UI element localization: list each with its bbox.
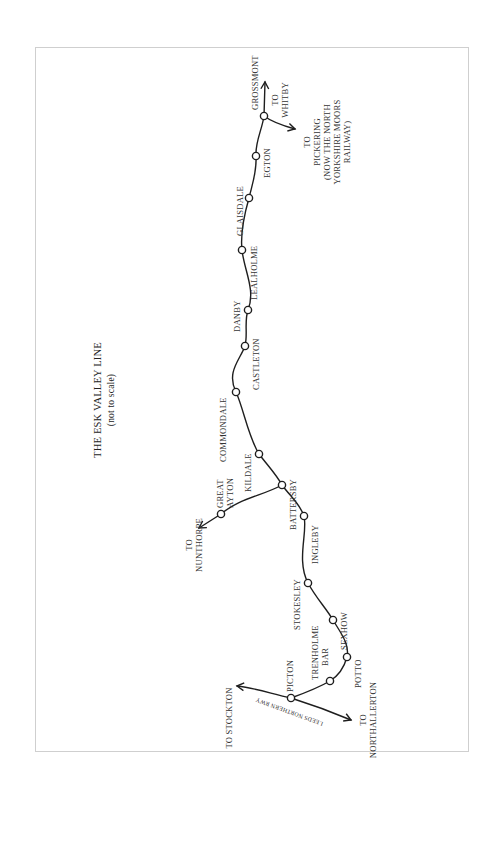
label-battersby: BATTERSBY [288,479,298,530]
label-trenholme-2: BAR [320,648,330,666]
dest-whitby-1: TO [270,94,280,106]
label-great-ayton-1: GREAT [215,479,225,508]
stockton-branch [237,686,291,698]
title-block: THE ESK VALLEY LINE (not to scale) [92,342,117,458]
diagram-subtitle: (not to scale) [106,374,117,426]
label-commondale: COMMONDALE [218,397,228,462]
station-node-picton[interactable] [287,694,294,701]
dest-stockton: TO STOCKTON [224,687,234,749]
station-node-ingleby[interactable] [300,512,307,519]
label-glaisdale: GLAISDALE [235,186,245,236]
dest-nunthorpe-2: NUNTHORPE [194,518,204,572]
station-node-trenholme-bar[interactable] [326,677,333,684]
label-danby: DANBY [232,300,242,332]
station-node-danby[interactable] [244,306,251,313]
label-trenholme-1: TRENHOLME [310,625,320,680]
station-node-commondale[interactable] [232,388,239,395]
label-egton: EGTON [262,147,272,178]
dest-pickering-5: RAILWAY) [342,121,352,164]
esk-valley-line-diagram: THE ESK VALLEY LINE (not to scale) GROSS… [0,0,493,854]
dest-pickering-3: (NOW THE NORTH [322,104,332,180]
station-node-glaisdale[interactable] [245,194,252,201]
label-castleton: CASTLETON [251,338,261,390]
diagram-title: THE ESK VALLEY LINE [92,342,103,458]
dest-pickering-4: YORKSHIRE MOORS [332,100,342,185]
label-picton: PICTON [285,659,295,692]
label-potto: POTTO [353,659,363,688]
dest-northallerton-1: TO [358,714,368,726]
label-stokesley: STOKESLEY [292,579,302,630]
station-node-egton[interactable] [252,152,259,159]
station-node-battersby[interactable] [278,481,285,488]
main-line-track [232,116,347,698]
station-node-lealholme[interactable] [238,246,245,253]
station-node-potto[interactable] [343,653,350,660]
label-great-ayton-2: AYTON [225,477,235,508]
label-grossmont: GROSSMONT [250,55,260,110]
label-sexhow: SEXHOW [339,611,349,650]
dest-nunthorpe-1: TO [184,539,194,551]
station-node-kildale[interactable] [255,450,262,457]
label-lealholme: LEALHOLME [249,246,259,300]
dest-pickering-1: TO [302,136,312,148]
nunthorpe-branch [199,485,282,528]
station-node-stokesley[interactable] [304,579,311,586]
station-node-grossmont[interactable] [260,112,267,119]
label-ingleby: INGLEBY [310,525,320,564]
dest-pickering-2: PICKERING [312,118,322,166]
label-kildale: KILDALE [243,453,253,492]
station-node-sexhow[interactable] [329,616,336,623]
station-node-castleton[interactable] [241,342,248,349]
dest-whitby-2: WHITBY [280,82,290,118]
whitby-branch [264,82,265,116]
station-node-great-ayton[interactable] [217,510,224,517]
dest-northallerton-2: NORTHALLERTON [368,681,378,758]
